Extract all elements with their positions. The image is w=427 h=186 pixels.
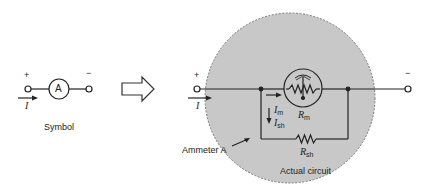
- meter-letter: A: [55, 83, 62, 94]
- rm-label: Rm: [298, 109, 310, 121]
- actual-plus-label: +: [194, 70, 199, 80]
- ish-sub: sh: [277, 122, 284, 129]
- rsh-sub: sh: [306, 151, 313, 158]
- ammeter-label: Ammeter A: [182, 145, 227, 155]
- ish-label: Ish: [274, 117, 285, 129]
- symbol-minus-label: −: [86, 68, 91, 78]
- symbol-caption: Symbol: [44, 122, 74, 132]
- circuit-diagram: [0, 0, 427, 186]
- symbol-plus-label: +: [24, 70, 29, 80]
- rsh-label: Rsh: [300, 146, 314, 158]
- actual-minus-label: −: [405, 68, 410, 78]
- actual-caption: Actual circuit: [280, 166, 331, 176]
- symbol-current-label: I: [25, 100, 28, 111]
- im-label: Im: [274, 104, 283, 116]
- actual-current-label: I: [196, 100, 199, 111]
- im-sub: m: [277, 109, 283, 116]
- hollow-right-arrow-icon: [122, 77, 154, 101]
- rm-sub: m: [304, 114, 310, 121]
